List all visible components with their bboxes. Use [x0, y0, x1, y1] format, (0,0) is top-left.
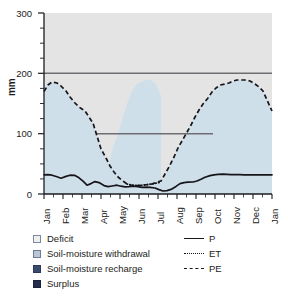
legend-swatch-surplus — [33, 280, 41, 288]
legend-fill-column: Deficit Soil-moisture withdrawal Soil-mo… — [33, 232, 150, 292]
x-tick-label-oct: Oct — [212, 209, 223, 224]
legend-line-column: P ET PE — [184, 232, 222, 277]
x-tick-label-aug: Aug — [174, 207, 185, 224]
water-balance-plot — [0, 0, 288, 232]
legend-item-soil-moisture-recharge: Soil-moisture recharge — [33, 262, 150, 276]
y-axis-title: mm — [6, 79, 17, 96]
x-tick-label-feb: Feb — [60, 208, 71, 224]
legend-label-et: ET — [209, 249, 221, 259]
legend-item-p: P — [184, 232, 222, 246]
legend-linekey-p-solid — [184, 235, 204, 243]
legend-swatch-soil-moisture-withdrawal — [33, 250, 41, 258]
legend-linekey-et-dotted — [184, 250, 204, 258]
chart-legend: Deficit Soil-moisture withdrawal Soil-mo… — [0, 230, 288, 300]
legend-label-soil-moisture-recharge: Soil-moisture recharge — [47, 264, 143, 274]
legend-label-surplus: Surplus — [47, 279, 79, 289]
legend-item-surplus: Surplus — [33, 277, 150, 291]
legend-item-soil-moisture-withdrawal: Soil-moisture withdrawal — [33, 247, 150, 261]
x-tick-label-jul: Jul — [155, 212, 166, 224]
x-tick-label-dec: Dec — [250, 207, 261, 224]
x-tick-label-apr: Apr — [98, 209, 109, 224]
legend-item-deficit: Deficit — [33, 232, 150, 246]
legend-swatch-soil-moisture-recharge — [33, 265, 41, 273]
legend-label-p: P — [209, 234, 215, 244]
x-tick-label-mar: Mar — [79, 208, 90, 224]
x-tick-label-may: May — [117, 206, 128, 224]
legend-swatch-deficit — [33, 235, 41, 243]
x-major-ticks — [44, 194, 272, 199]
y-tick-label-100: 100 — [4, 128, 32, 139]
legend-item-et: ET — [184, 247, 222, 261]
figure: mm 300 200 100 0 Jan Feb Mar Apr May Jun… — [0, 0, 288, 306]
x-tick-label-jun: Jun — [136, 209, 147, 224]
chart-area: mm 300 200 100 0 Jan Feb Mar Apr May Jun… — [0, 0, 288, 232]
x-tick-label-nov: Nov — [231, 207, 242, 224]
x-tick-label-sep: Sep — [193, 207, 204, 224]
y-tick-label-300: 300 — [4, 8, 32, 19]
y-tick-label-200: 200 — [4, 68, 32, 79]
x-tick-label-jan-1: Jan — [41, 209, 52, 224]
legend-label-deficit: Deficit — [47, 234, 73, 244]
legend-linekey-pe-dashed — [184, 265, 204, 273]
x-tick-label-jan-2: Jan — [269, 209, 280, 224]
y-tick-label-0: 0 — [4, 189, 32, 200]
legend-label-soil-moisture-withdrawal: Soil-moisture withdrawal — [47, 249, 150, 259]
legend-label-pe: PE — [209, 264, 222, 274]
legend-item-pe: PE — [184, 262, 222, 276]
